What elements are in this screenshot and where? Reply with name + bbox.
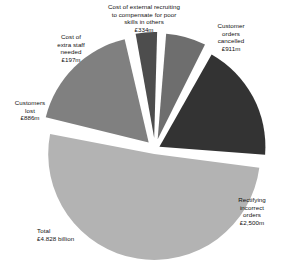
chart-total-label: Total £4.828 billion (37, 227, 109, 242)
pie-chart: Cost of external recruiting to compensat… (0, 0, 287, 265)
slice-label-rectifying-incorrect-orders: Rectifying incorrect orders £2,500m (222, 196, 282, 226)
slice-label-extra-staff: Cost of extra staff needed £197m (40, 33, 102, 63)
slice-label-customer-orders-cancelled: Customer orders cancelled £911m (200, 22, 262, 52)
slice-label-external-recruiting: Cost of external recruiting to compensat… (96, 3, 192, 33)
slice-label-customers-lost: Customers lost £886m (2, 99, 58, 122)
